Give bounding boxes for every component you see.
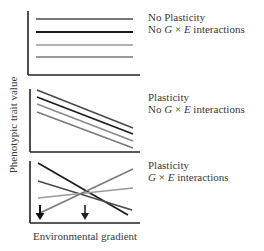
caption-line-2: G × E interactions — [148, 172, 228, 183]
reaction-norm-diagram — [0, 0, 264, 251]
panel-plasticity-no-gxe — [30, 89, 140, 152]
arrow-down-icon — [81, 205, 89, 220]
panel-plasticity-gxe — [30, 161, 140, 223]
panel-no-plasticity — [28, 11, 140, 75]
panel-1-caption: No Plasticity No G × E interactions — [148, 12, 245, 35]
panel-3-caption: Plasticity G × E interactions — [148, 160, 228, 183]
genotype-line — [37, 112, 133, 148]
panel-2-caption: Plasticity No G × E interactions — [148, 92, 245, 115]
genotype-line — [37, 97, 133, 134]
caption-line-2: No G × E interactions — [148, 24, 245, 35]
y-axis-label: Phenotypic trait value — [7, 77, 19, 174]
caption-line-1: No Plasticity — [148, 12, 245, 23]
caption-line-2: No G × E interactions — [148, 104, 245, 115]
caption-line-1: Plasticity — [148, 160, 228, 171]
caption-line-1: Plasticity — [148, 92, 245, 103]
arrow-down-icon — [36, 205, 45, 220]
x-axis-label: Environmental gradient — [33, 230, 137, 242]
